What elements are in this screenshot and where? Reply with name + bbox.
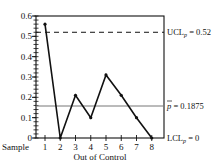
center-label: p = 0.1875 bbox=[166, 101, 204, 111]
data-point bbox=[59, 136, 62, 139]
ucl-label: UCLp = 0.52 bbox=[167, 27, 211, 38]
x-tick-label: 8 bbox=[150, 142, 155, 152]
x-prefix-label: Sample bbox=[2, 142, 29, 152]
annotations: UCLp = 0.52p = 0.1875LCLp = 0 bbox=[166, 27, 211, 144]
sample-line bbox=[45, 24, 152, 138]
x-tick-label: 1 bbox=[43, 142, 48, 152]
y-tick-label: 0.5 bbox=[21, 31, 33, 41]
plot-frame bbox=[36, 16, 164, 138]
data-point bbox=[43, 23, 46, 26]
y-tick-label: 0.6 bbox=[21, 11, 33, 21]
x-axis-title: Out of Control bbox=[74, 152, 127, 162]
data-point bbox=[135, 116, 138, 119]
p-control-chart: 00.10.20.30.40.50.6 12345678SampleOut of… bbox=[0, 0, 219, 166]
y-tick-label: 0.2 bbox=[21, 92, 32, 102]
sample-proportion-series bbox=[43, 23, 153, 140]
x-axis: 12345678SampleOut of Control bbox=[2, 135, 155, 162]
x-tick-label: 3 bbox=[73, 142, 78, 152]
y-tick-label: 0.4 bbox=[21, 52, 33, 62]
data-point bbox=[150, 136, 153, 139]
x-tick-label: 7 bbox=[134, 142, 139, 152]
plot-border bbox=[36, 16, 164, 138]
data-point bbox=[104, 73, 107, 76]
y-tick-label: 0.1 bbox=[21, 113, 32, 123]
lcl-label: LCLp = 0 bbox=[167, 133, 199, 144]
data-point bbox=[120, 94, 123, 97]
y-tick-label: 0.3 bbox=[21, 72, 33, 82]
data-point bbox=[89, 116, 92, 119]
data-point bbox=[74, 94, 77, 97]
x-tick-label: 2 bbox=[58, 142, 63, 152]
x-tick-label: 4 bbox=[89, 142, 94, 152]
x-tick-label: 6 bbox=[119, 142, 124, 152]
x-tick-label: 5 bbox=[104, 142, 109, 152]
